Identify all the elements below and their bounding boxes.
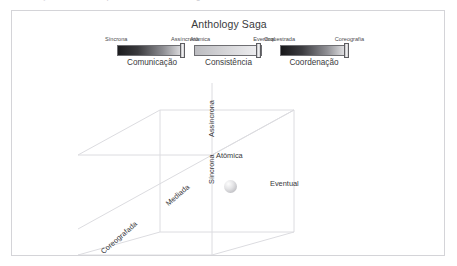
slider-caption: Consistência [186,58,271,67]
slider-handle[interactable] [180,43,185,58]
slider-left-label: Orquestrada [264,36,295,42]
slider-track[interactable] [194,45,262,56]
cube-label-eventual: Eventual [270,179,299,188]
bleed-fragment: gem [196,0,212,1]
slider-track[interactable] [280,45,348,56]
cube-diagram: Assíncrona Síncrona Atômica Eventual Med… [12,69,446,255]
slider-caption: Coordenação [264,58,364,67]
cube-edges [12,69,446,255]
bleed-fragment: que [104,0,117,1]
figure-title: Anthology Saga [12,18,446,30]
cube-edge-top-left [78,110,160,155]
slider-left-label: Atômica [190,36,210,42]
bleed-fragment: ção [42,0,55,1]
cube-label-asincrona: Assíncrona [207,100,216,137]
slider-track[interactable] [117,45,185,56]
page-bleed-text: ção que gem [0,0,457,7]
figure-page: ção que gem Anthology Saga Síncrona Assí… [0,0,457,266]
slider-handle[interactable] [344,43,349,58]
slider-left-label: Síncrona [105,36,127,42]
slider-handle[interactable] [256,43,261,58]
cube-face-back [160,110,294,232]
cube-label-sincrona: Síncrona [207,154,216,184]
cube-label-atomica: Atômica [216,151,243,160]
axis-line-eventual [212,110,294,155]
slider-caption: Comunicação [105,58,199,67]
figure-frame: Anthology Saga Síncrona Assíncrona Comun… [11,10,445,256]
state-sphere-marker [224,180,237,193]
slider-right-label: Coreografia [335,36,364,42]
axis-line-coreografada [78,155,212,229]
cube-face-front [78,155,212,255]
cube-edge-bottom-right [212,232,294,255]
